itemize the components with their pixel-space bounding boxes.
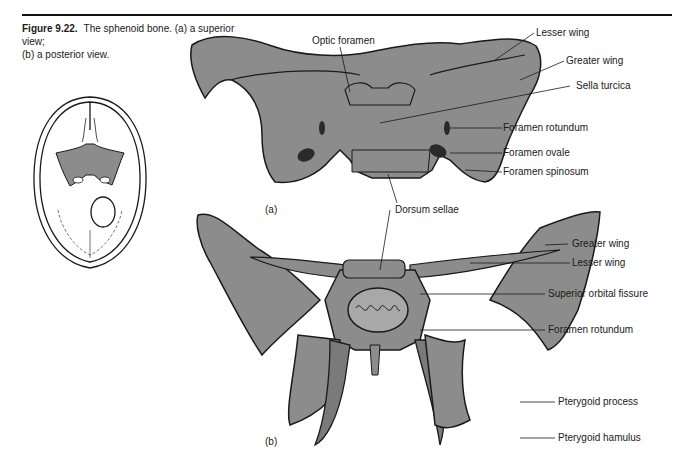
label-greater-wing-b: Greater wing (572, 238, 629, 250)
label-optic-foramen-a: Optic foramen (312, 35, 375, 47)
label-foramen-ovale: Foramen ovale (503, 147, 570, 159)
part-label-b: (b) (265, 436, 277, 447)
label-foramen-rotundum-b: Foramen rotundum (548, 324, 633, 336)
part-label-a: (a) (265, 204, 277, 215)
label-foramen-spinosum: Foramen spinosum (503, 166, 589, 178)
label-pterygoid-process: Pterygoid process (558, 396, 638, 408)
label-foramen-rotundum-a: Foramen rotundum (503, 122, 588, 134)
sphenoid-superior-view (191, 37, 541, 183)
label-sella-turcica: Sella turcica (576, 80, 630, 92)
sphenoid-posterior-view (197, 212, 600, 445)
label-lesser-wing-b: Lesser wing (572, 257, 625, 269)
label-superior-orbital-fissure: Superior orbital fissure (548, 288, 648, 300)
label-greater-wing-a: Greater wing (566, 55, 623, 67)
label-lesser-wing-a: Lesser wing (536, 27, 589, 39)
sphenoid-inset (56, 144, 124, 186)
skull-inset (34, 97, 146, 268)
label-pterygoid-hamulus: Pterygoid hamulus (558, 432, 641, 444)
label-dorsum-sellae: Dorsum sellae (395, 204, 459, 216)
